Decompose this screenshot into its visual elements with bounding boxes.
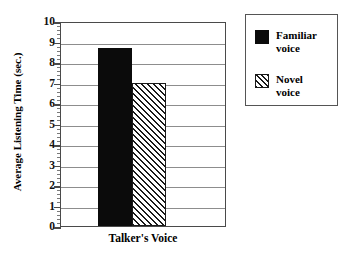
legend-item[interactable]: Novelvoice [255,73,303,98]
y-axis-title: Average Listening Time (sec.) [8,6,26,238]
y-axis-tick-label: 6 [33,98,55,109]
y-axis-tick-label: 5 [33,119,55,130]
y-axis-tick-label: 9 [33,37,55,48]
y-axis-tick-label: 7 [33,78,55,89]
legend-item-label: Novelvoice [276,73,303,98]
y-axis-tick-label: 4 [33,139,55,150]
legend-swatch-icon [255,74,269,88]
legend-label-line1: Familiar [276,29,317,42]
y-axis-major-tick [54,227,61,229]
y-axis-tick-label: 0 [33,221,55,232]
x-axis-label: Talker's Voice [60,232,226,244]
y-axis-tick-label: 2 [33,180,55,191]
gridline [61,64,225,65]
y-axis-tick-label: 1 [33,201,55,212]
legend-label-line2: voice [276,86,303,99]
legend-item[interactable]: Familiarvoice [255,29,317,54]
bar-familiar-voice [98,48,132,226]
legend-label-line2: voice [276,42,317,55]
y-axis-tick-label: 8 [33,57,55,68]
legend-label-line1: Novel [276,73,303,86]
y-axis-tick-label: 3 [33,160,55,171]
chart-figure: Average Listening Time (sec.) 0123456789… [0,0,347,263]
legend-swatch-icon [255,30,269,44]
legend-item-label: Familiarvoice [276,29,317,54]
legend: FamiliarvoiceNovelvoice [245,14,338,106]
gridline [61,44,225,45]
plot-area [60,22,226,227]
y-axis-tick-label: 10 [33,16,55,27]
bar-novel-voice [132,83,166,227]
